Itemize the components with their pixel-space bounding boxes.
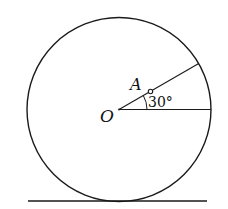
label-center-o: O [100, 106, 114, 126]
angle-arc [143, 96, 147, 110]
label-point-a: A [128, 75, 142, 94]
rolling-wheel-diagram: O A 30° [0, 0, 228, 209]
label-angle: 30° [148, 94, 173, 110]
center-point [118, 109, 120, 111]
